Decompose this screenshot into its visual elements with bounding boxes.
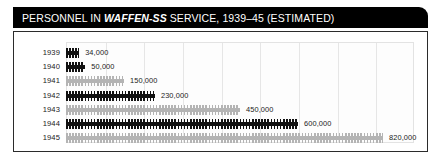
title-prefix: PERSONNEL IN [22,12,104,24]
bar-row: 1944600,000 [14,117,427,131]
pictogram-bar [66,62,85,72]
year-axis-label: 1941 [14,74,60,88]
year-axis-label: 1939 [14,46,60,60]
pictogram-bar [66,105,240,115]
bar-row: 194050,000 [14,60,427,74]
bar-row: 193934,000 [14,46,427,60]
pictogram-bar [66,76,124,86]
bar-value-label: 34,000 [85,46,108,60]
bar-row: 1943450,000 [14,103,427,117]
bar-row: 1942230,000 [14,89,427,103]
chart-panel: 193934,000194050,0001941150,0001942230,0… [13,31,428,152]
title-emphasis: WAFFEN-SS [104,12,167,24]
waffen-ss-personnel-figure: PERSONNEL IN WAFFEN-SS SERVICE, 1939–45 … [0,0,441,161]
year-axis-label: 1942 [14,89,60,103]
bar-value-label: 820,000 [389,131,416,145]
page-title: PERSONNEL IN WAFFEN-SS SERVICE, 1939–45 … [22,12,334,24]
chart-title-bar: PERSONNEL IN WAFFEN-SS SERVICE, 1939–45 … [13,7,428,28]
pictogram-bar [66,119,298,129]
pictogram-bar [66,91,155,101]
bar-value-label: 50,000 [91,60,114,74]
year-axis-label: 1944 [14,117,60,131]
bar-row: 1945820,000 [14,131,427,145]
year-axis-label: 1940 [14,60,60,74]
title-suffix: SERVICE, 1939–45 (ESTIMATED) [167,12,335,24]
pictogram-bar [66,48,79,58]
bar-value-label: 230,000 [161,89,188,103]
pictogram-bar [66,133,383,143]
bar-value-label: 150,000 [130,74,157,88]
bar-value-label: 450,000 [246,103,273,117]
year-axis-label: 1945 [14,131,60,145]
year-axis-label: 1943 [14,103,60,117]
bar-row: 1941150,000 [14,74,427,88]
bar-value-label: 600,000 [304,117,331,131]
chart-panel-inner: 193934,000194050,0001941150,0001942230,0… [14,32,427,151]
